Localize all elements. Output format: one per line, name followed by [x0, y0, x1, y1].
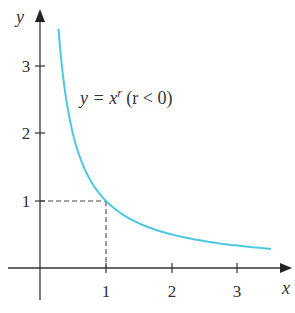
power-function-chart: 1 2 3 1 2 3 x y y = xr (r < 0) [0, 0, 295, 313]
x-tick-label-2: 2 [168, 282, 177, 301]
equation-main: y = x [78, 88, 117, 108]
y-axis-label: y [14, 7, 24, 27]
x-axis-label: x [281, 278, 290, 298]
x-tick-label-1: 1 [102, 282, 111, 301]
equation-suffix: (r < 0) [122, 88, 173, 109]
y-tick-label-3: 3 [22, 57, 31, 76]
equation-annotation: y = xr (r < 0) [78, 86, 172, 109]
power-curve [59, 29, 272, 249]
y-tick-label-1: 1 [22, 192, 31, 211]
y-tick-label-2: 2 [22, 124, 31, 143]
y-axis-arrow-icon [35, 9, 45, 22]
x-axis-arrow-icon [280, 263, 292, 273]
x-tick-label-3: 3 [233, 282, 242, 301]
